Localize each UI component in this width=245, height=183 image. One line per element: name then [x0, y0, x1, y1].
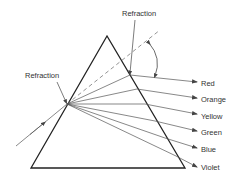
prism-diagram: Refraction Refraction Red Orange Yellow … — [0, 0, 245, 183]
undeviated-path-dashed — [67, 30, 160, 104]
ray-green — [155, 121, 197, 131]
ray-violet — [176, 156, 197, 167]
refraction-left-label: Refraction — [25, 71, 59, 80]
label-orange: Orange — [201, 95, 226, 104]
ray-orange — [137, 89, 197, 98]
deviation-angle-arc — [149, 43, 157, 76]
prism-triangle — [31, 36, 185, 168]
refraction-top-label: Refraction — [122, 9, 156, 18]
label-red: Red — [201, 79, 215, 88]
refraction-top-pointer — [130, 20, 135, 73]
label-blue: Blue — [201, 145, 216, 154]
internal-rays — [67, 75, 176, 156]
label-green: Green — [201, 128, 222, 137]
ray-red — [130, 75, 197, 82]
incoming-ray-arrow-icon — [30, 123, 44, 135]
label-yellow: Yellow — [201, 112, 223, 121]
refraction-left-pointer — [57, 82, 66, 102]
outgoing-rays — [130, 75, 197, 167]
label-violet: Violet — [201, 163, 221, 172]
